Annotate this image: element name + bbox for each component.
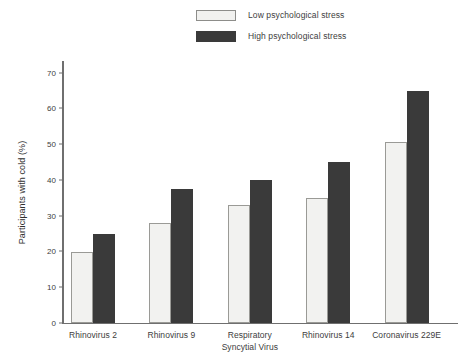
y-axis-title: Participants with cold (%) <box>14 62 30 323</box>
bar-low-stress[interactable] <box>149 223 171 323</box>
bar-group <box>385 62 429 323</box>
bar-group <box>71 62 115 323</box>
bar-high-stress[interactable] <box>250 180 272 323</box>
legend-swatch-high-stress <box>196 31 236 42</box>
bar-low-stress[interactable] <box>306 198 328 323</box>
y-axis-tick-mark <box>59 72 63 73</box>
bar-group <box>149 62 193 323</box>
bar-low-stress[interactable] <box>228 205 250 323</box>
bar-high-stress[interactable] <box>93 234 115 323</box>
bar-high-stress[interactable] <box>171 189 193 323</box>
y-axis-tick-mark <box>59 144 63 145</box>
y-axis-tick-mark <box>59 287 63 288</box>
legend-swatch-low-stress <box>196 10 236 21</box>
bar-group <box>306 62 350 323</box>
legend-label-high-stress: High psychological stress <box>248 31 346 41</box>
y-axis-tick-mark <box>59 215 63 216</box>
y-axis-tick-mark <box>59 323 63 324</box>
legend-item-low-stress: Low psychological stress <box>196 6 396 24</box>
bar-chart: Low psychological stress High psychologi… <box>0 0 468 360</box>
y-axis-tick-mark <box>59 108 63 109</box>
bar-low-stress[interactable] <box>71 252 93 324</box>
bar-high-stress[interactable] <box>407 91 429 323</box>
plot-area: 010203040506070 <box>63 62 455 323</box>
chart-legend: Low psychological stress High psychologi… <box>196 6 396 48</box>
bar-high-stress[interactable] <box>328 162 350 323</box>
x-axis-label: Coronavirus 229E <box>357 329 457 341</box>
legend-item-high-stress: High psychological stress <box>196 27 396 45</box>
y-axis-tick-mark <box>59 251 63 252</box>
bar-low-stress[interactable] <box>385 142 407 323</box>
bar-group <box>228 62 272 323</box>
legend-label-low-stress: Low psychological stress <box>248 10 344 20</box>
y-axis-tick-mark <box>59 179 63 180</box>
